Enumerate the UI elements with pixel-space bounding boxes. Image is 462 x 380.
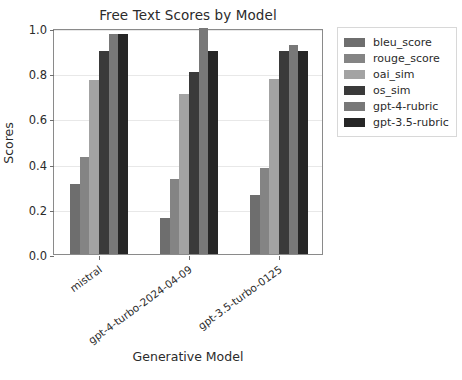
x-tick-mark [189, 256, 190, 260]
bar [118, 34, 128, 254]
bar [269, 79, 279, 254]
y-tick-label: 0.0 [7, 249, 47, 263]
bar [189, 72, 199, 254]
legend-swatch-icon [344, 38, 365, 47]
legend-label: gpt-3.5-rubric [373, 117, 449, 128]
chart-legend: bleu_scorerouge_scoreoai_simos_simgpt-4-… [337, 27, 457, 137]
legend-item[interactable]: gpt-4-rubric [344, 98, 449, 114]
legend-label: gpt-4-rubric [373, 101, 438, 112]
bar [208, 51, 218, 254]
bar [170, 179, 180, 254]
y-tick-label: 0.4 [7, 159, 47, 173]
legend-label: os_sim [373, 85, 410, 96]
x-tick-mark [99, 256, 100, 260]
bar [179, 94, 189, 254]
legend-item[interactable]: os_sim [344, 82, 449, 98]
bar [279, 51, 289, 254]
legend-swatch-icon [344, 54, 365, 63]
legend-swatch-icon [344, 70, 365, 79]
y-tick-mark [50, 30, 54, 31]
y-tick-label: 0.2 [7, 204, 47, 218]
chart-figure: Free Text Scores by Model Scores 0.00.20… [0, 0, 462, 380]
legend-swatch-icon [344, 118, 365, 127]
y-tick-mark [50, 211, 54, 212]
bar [89, 80, 99, 254]
y-tick-mark [50, 256, 54, 257]
x-tick-label: gpt-3.5-turbo-0125 [196, 263, 284, 332]
legend-item[interactable]: gpt-3.5-rubric [344, 114, 449, 130]
y-tick-label: 0.6 [7, 113, 47, 127]
legend-item[interactable]: oai_sim [344, 66, 449, 82]
plot-inner [54, 30, 322, 254]
y-tick-label: 0.8 [7, 68, 47, 82]
bar [298, 51, 308, 254]
legend-label: oai_sim [373, 69, 415, 80]
bar [199, 28, 209, 254]
legend-swatch-icon [344, 102, 365, 111]
x-tick-label: mistral [68, 263, 105, 294]
gridline [54, 30, 322, 31]
x-axis-label: Generative Model [53, 349, 323, 364]
legend-item[interactable]: rouge_score [344, 50, 449, 66]
y-tick-mark [50, 75, 54, 76]
bar [109, 34, 119, 254]
y-tick-mark [50, 120, 54, 121]
chart-title: Free Text Scores by Model [53, 7, 323, 23]
bar [99, 51, 109, 254]
legend-label: bleu_score [373, 37, 432, 48]
bar [160, 218, 170, 254]
bar [289, 45, 299, 254]
bar [260, 168, 270, 254]
x-tick-mark [279, 256, 280, 260]
bar [80, 157, 90, 254]
y-tick-label: 1.0 [7, 23, 47, 37]
legend-label: rouge_score [373, 53, 440, 64]
x-tick-label: gpt-4-turbo-2024-04-09 [86, 263, 194, 346]
legend-swatch-icon [344, 86, 365, 95]
legend-item[interactable]: bleu_score [344, 34, 449, 50]
bar [70, 184, 80, 254]
bar [250, 195, 260, 254]
y-tick-mark [50, 166, 54, 167]
y-axis-label: Scores [1, 122, 16, 164]
plot-area: Scores 0.00.20.40.60.81.0 mistralgpt-4-t… [53, 29, 323, 255]
